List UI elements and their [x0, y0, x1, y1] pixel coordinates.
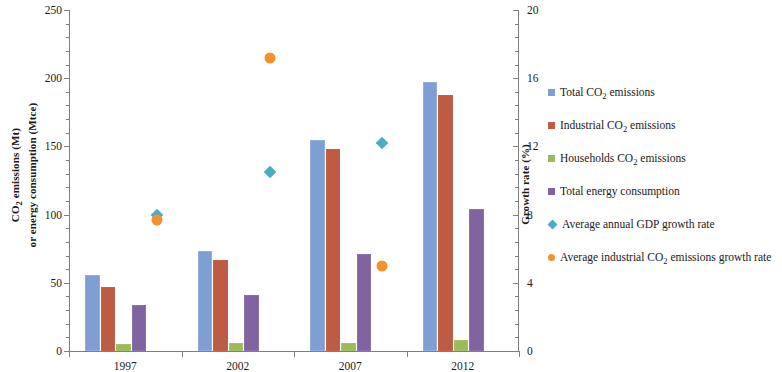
y-left-title-line2: or energy consumption (Mtce) [26, 103, 38, 248]
y-right-tick [513, 146, 519, 147]
y-right-minor-tick [515, 215, 519, 216]
y-left-tick [64, 283, 70, 284]
y-left-minor-tick [66, 201, 70, 202]
y-left-minor-tick [66, 65, 70, 66]
x-axis-tick [294, 351, 295, 357]
y-right-tick-label: 4 [527, 277, 533, 289]
x-axis-tick [519, 351, 520, 357]
chart-legend: Total CO2 emissionsIndustrial CO2 emissi… [548, 86, 782, 284]
y-right-minor-tick [515, 92, 519, 93]
legend-label: Average industrial CO2 emissions growth … [560, 251, 771, 267]
legend-item-average-industrial-co2-emissions-growth-rate[interactable]: Average industrial CO2 emissions growth … [548, 251, 782, 284]
bar-total-energy-consumption-2002 [244, 295, 259, 351]
bar-households-co2-emissions-2002 [229, 343, 244, 351]
y-left-tick-label: 50 [22, 277, 62, 289]
y-left-tick-label: 0 [22, 345, 62, 357]
y-axis-right-line [518, 10, 519, 352]
y-right-minor-tick [515, 242, 519, 243]
bar-industrial-co2-emissions-2002 [213, 260, 228, 351]
y-right-minor-tick [515, 105, 519, 106]
legend-label: Households CO2 emissions [560, 152, 686, 168]
y-left-title-line1: CO2 emissions (Mt) [9, 128, 21, 222]
y-left-minor-tick [66, 174, 70, 175]
y-left-minor-tick [66, 37, 70, 38]
y-right-minor-tick [515, 337, 519, 338]
y-left-tick [64, 10, 70, 11]
y-right-minor-tick [515, 37, 519, 38]
bar-total-energy-consumption-1997 [132, 305, 147, 351]
legend-item-total-energy-consumption[interactable]: Total energy consumption [548, 185, 782, 218]
x-axis-tick [182, 351, 183, 357]
bar-total-energy-consumption-2012 [469, 209, 484, 351]
bar-total-co2-emissions-2002 [198, 251, 213, 351]
y-left-tick-label: 150 [22, 140, 62, 152]
y-left-minor-tick [66, 337, 70, 338]
y-right-minor-tick [515, 187, 519, 188]
y-left-minor-tick [66, 160, 70, 161]
y-left-minor-tick [66, 256, 70, 257]
legend-diamond-icon [548, 220, 558, 230]
bar-households-co2-emissions-1997 [116, 344, 131, 351]
y-left-minor-tick [66, 310, 70, 311]
y-axis-left-line [69, 10, 70, 352]
y-right-minor-tick [515, 296, 519, 297]
legend-square-icon [548, 122, 555, 129]
y-left-tick [64, 215, 70, 216]
legend-item-industrial-co2-emissions[interactable]: Industrial CO2 emissions [548, 119, 782, 152]
y-left-minor-tick [66, 187, 70, 188]
y-right-minor-tick [515, 324, 519, 325]
x-axis-tick [69, 351, 70, 357]
legend-circle-icon [548, 254, 555, 261]
y-right-minor-tick [515, 133, 519, 134]
y-left-minor-tick [66, 24, 70, 25]
legend-label: Average annual GDP growth rate [562, 218, 715, 230]
legend-item-households-co2-emissions[interactable]: Households CO2 emissions [548, 152, 782, 185]
y-right-minor-tick [515, 310, 519, 311]
point-average-annual-gdp-growth-rate-2007 [376, 137, 389, 150]
y-right-tick [513, 283, 519, 284]
legend-item-total-co2-emissions[interactable]: Total CO2 emissions [548, 86, 782, 119]
legend-square-icon [548, 188, 555, 195]
y-axis-left-title: CO2 emissions (Mt) or energy consumption… [9, 75, 39, 275]
legend-label: Total CO2 emissions [560, 86, 655, 102]
x-axis-tick-label: 2002 [226, 360, 249, 372]
point-average-industrial-co2-emissions-growth-rate-2007 [377, 260, 388, 271]
legend-square-icon [548, 89, 555, 96]
bar-households-co2-emissions-2007 [341, 343, 356, 351]
y-right-tick [513, 10, 519, 11]
y-right-minor-tick [515, 256, 519, 257]
bar-industrial-co2-emissions-1997 [101, 287, 116, 351]
y-right-tick-label: 0 [527, 345, 533, 357]
x-axis-tick-label: 2007 [339, 360, 362, 372]
point-average-industrial-co2-emissions-growth-rate-2002 [264, 52, 275, 63]
y-left-minor-tick [66, 296, 70, 297]
y-left-minor-tick [66, 133, 70, 134]
bar-total-co2-emissions-1997 [85, 275, 100, 351]
y-left-tick-label: 200 [22, 72, 62, 84]
y-left-minor-tick [66, 242, 70, 243]
bar-total-co2-emissions-2007 [310, 140, 325, 351]
y-right-minor-tick [515, 119, 519, 120]
legend-square-icon [548, 155, 555, 162]
y-left-minor-tick [66, 269, 70, 270]
y-right-minor-tick [515, 24, 519, 25]
y-left-minor-tick [66, 324, 70, 325]
plot-area: 050100150200250 048121620 19972002200720… [69, 10, 519, 352]
y-axis-right-title: Growth rate (%) [519, 115, 532, 255]
bar-total-energy-consumption-2007 [357, 254, 372, 351]
point-average-annual-gdp-growth-rate-2002 [263, 166, 276, 179]
y-left-minor-tick [66, 119, 70, 120]
legend-item-average-annual-gdp-growth-rate[interactable]: Average annual GDP growth rate [548, 218, 782, 251]
y-left-tick [64, 78, 70, 79]
y-right-tick-label: 8 [527, 209, 533, 221]
y-left-minor-tick [66, 92, 70, 93]
bar-households-co2-emissions-2012 [454, 340, 469, 351]
y-right-minor-tick [515, 174, 519, 175]
y-left-minor-tick [66, 105, 70, 106]
legend-label: Industrial CO2 emissions [560, 119, 675, 135]
y-right-tick-label: 12 [527, 140, 539, 152]
y-left-minor-tick [66, 228, 70, 229]
y-right-minor-tick [515, 228, 519, 229]
bar-total-co2-emissions-2012 [423, 82, 438, 351]
